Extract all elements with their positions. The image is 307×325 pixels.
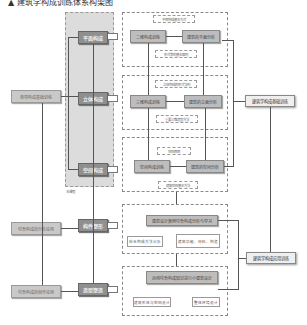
diagram-title: ▲ 建筑学构成训练体系构架图 (8, 0, 307, 6)
left-loop-bottom (68, 169, 78, 170)
right-bracket-1 (233, 40, 234, 167)
module-solid-top-note: 立体构成的形式法则 (155, 80, 197, 88)
link-right-2-3 (205, 108, 206, 160)
module-space-left: 空间构成训练 (134, 160, 170, 173)
link-space-h (170, 166, 186, 167)
design-right: 整体环境设计 (192, 297, 220, 307)
module-space-top-note: 空间界面 (157, 147, 191, 155)
left-link-3 (61, 291, 78, 292)
left-loop-line (68, 37, 69, 97)
module-space-bottom-note: 建筑空间基本方法 (158, 181, 198, 189)
module-solid-left: 三维构成训练 (130, 95, 166, 108)
design-left: 建筑形体与空间设计 (133, 297, 171, 307)
core-form-shaping: 造型塑造 (78, 283, 108, 296)
core-column-note: 本课程 (66, 189, 75, 194)
arrow-to-module-analysis (108, 222, 118, 229)
analysis-left: 综合构成方法分析 (127, 236, 163, 247)
arrow-to-module-planar (108, 33, 118, 40)
core-planar-composition: 平面构成 (78, 31, 108, 44)
left-link-1 (61, 96, 78, 97)
link-left-2-3 (148, 108, 149, 160)
design-main: 运用综合构成知识进行小建筑设计 (146, 271, 218, 284)
right-bracket-2-mid (238, 258, 246, 259)
module-planar-bottom-note: 形式美的基本原则 (155, 50, 197, 58)
left-loop-top (68, 37, 78, 38)
link-left-1-2 (148, 43, 149, 95)
link-analysis-design (176, 254, 177, 266)
module-planar-left: 二维构成训练 (130, 30, 166, 43)
analysis-main: 建筑设计案例综合构成分析与学习 (146, 215, 218, 226)
module-solid-right: 建筑的立面分析 (184, 95, 222, 108)
output-connector (270, 107, 271, 252)
module-space-right: 建筑的空间分析 (186, 160, 224, 173)
left-link-2 (61, 228, 78, 229)
left-connector (42, 103, 43, 285)
module-planar-right: 建筑的平面分析 (182, 30, 220, 43)
right-bracket-2-bottom (218, 289, 238, 290)
left-analysis-application: 综合构成的分析应用 (11, 222, 61, 235)
left-loop-line-2 (68, 96, 69, 170)
output-application-training: 建筑学构成应用训练 (246, 252, 296, 264)
right-bracket-2 (238, 220, 239, 290)
arrow-to-module-solid (108, 95, 118, 102)
right-bracket-1-top (222, 40, 233, 41)
core-connector (93, 44, 94, 283)
diagram-root: ▲ 建筑学构成训练体系构架图 本课程 平面构成 立体构成 空间构成 构件塑形 造… (0, 0, 307, 325)
output-basic-training: 建筑学构成基础训练 (245, 95, 295, 107)
link-planar-h (166, 36, 182, 37)
link-space-analysis (176, 192, 177, 204)
module-planar-top-note: 平面构成基本方式 (153, 15, 195, 23)
left-basic-training: 单项构成基础训练 (11, 90, 61, 103)
analysis-right: 建筑功能、材料、构造 (176, 234, 220, 248)
module-solid-bottom-note: 重要三维造型方法 (156, 115, 198, 123)
link-right-1-2 (203, 43, 204, 95)
link-solid-h (166, 101, 184, 102)
right-bracket-1-bottom (224, 166, 233, 167)
arrow-to-module-design (108, 286, 118, 293)
right-bracket-1-mid (233, 101, 245, 102)
left-creative-application: 综合构成的创作应用 (11, 285, 61, 298)
right-bracket-2-top (218, 220, 238, 221)
arrow-to-module-space (108, 166, 118, 173)
